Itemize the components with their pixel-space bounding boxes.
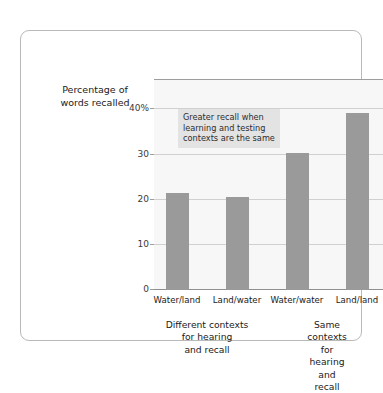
category-label-land-water: Land/water	[213, 295, 261, 305]
category-label-land-land: Land/land	[336, 295, 378, 305]
bar-land-land[interactable]	[346, 113, 369, 290]
ytick-label-30: 30	[138, 149, 149, 159]
bar-water-land[interactable]	[166, 193, 189, 290]
group-label-different-contexts: Different contexts for hearing and recal…	[166, 319, 249, 356]
tickmark-0	[150, 289, 154, 290]
category-label-water-water: Water/water	[271, 295, 324, 305]
ytick-label-40: 40%	[129, 103, 149, 113]
category-label-water-land: Water/land	[154, 295, 201, 305]
bar-water-water[interactable]	[286, 153, 309, 290]
tickmark-10	[150, 244, 154, 245]
tickmark-40	[150, 108, 154, 109]
tickmark-20	[150, 199, 154, 200]
chart-annotation: Greater recall when learning and testing…	[178, 109, 280, 148]
ytick-label-10: 10	[138, 239, 149, 249]
ytick-label-20: 20	[138, 194, 149, 204]
bar-land-water[interactable]	[226, 197, 249, 290]
y-axis-title: Percentage of words recalled	[51, 84, 139, 109]
group-label-same-contexts: Same contexts for hearing and recall	[307, 319, 346, 393]
chart-card: Percentage of words recalled 0 10 20 30	[20, 30, 362, 341]
ytick-label-0: 0	[143, 284, 149, 294]
plot-area: 0 10 20 30 40% Greater rec	[154, 79, 383, 290]
tickmark-30	[150, 154, 154, 155]
